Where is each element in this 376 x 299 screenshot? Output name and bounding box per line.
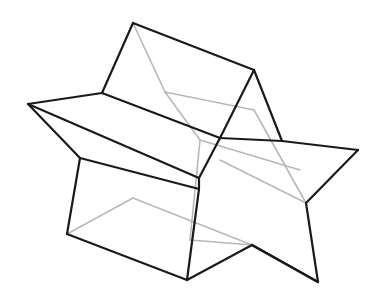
hidden-edge	[67, 198, 133, 234]
hidden-edge	[200, 140, 300, 170]
front-edge	[102, 23, 133, 93]
hidden-edges	[67, 23, 306, 245]
front-edge	[67, 158, 80, 234]
front-edge	[28, 93, 102, 104]
front-edge	[187, 245, 252, 280]
front-edge	[28, 104, 80, 158]
front-edge	[199, 138, 220, 178]
front-edge	[80, 158, 199, 189]
front-edge	[220, 138, 282, 141]
front-edge	[282, 141, 358, 150]
front-edge	[252, 245, 318, 282]
front-edge	[254, 70, 282, 141]
hidden-edge	[254, 110, 306, 203]
front-edge	[67, 234, 187, 280]
front-edge	[306, 150, 358, 203]
star-prism-diagram	[0, 0, 376, 299]
front-edge	[306, 203, 318, 282]
front-edges	[28, 23, 358, 282]
hidden-edge	[165, 92, 200, 140]
